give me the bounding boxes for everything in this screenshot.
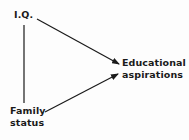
node-fam-line1: Family: [10, 105, 46, 117]
node-iq: I.Q.: [14, 9, 33, 21]
node-edu-line1: Educational: [122, 57, 186, 69]
edge-iq-education-arrow: [37, 19, 119, 64]
node-edu-line2: aspirations: [122, 69, 186, 81]
node-fam-line2: status: [10, 117, 46, 129]
edge-family-education-arrow: [45, 74, 118, 112]
node-iq-label: I.Q.: [14, 9, 33, 20]
node-educational-aspirations: Educational aspirations: [122, 57, 186, 81]
node-family-status: Family status: [10, 105, 46, 129]
